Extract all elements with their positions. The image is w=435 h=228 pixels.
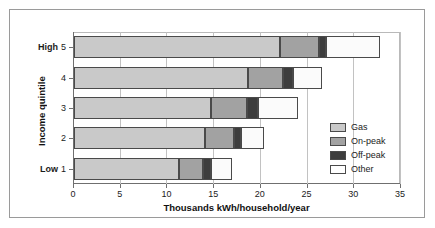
x-axis-title: Thousands kWh/household/year	[73, 202, 400, 213]
bar-segment-other-q4	[293, 67, 322, 89]
y-tick-q5	[69, 47, 73, 48]
bar-segment-off-peak-q4	[283, 67, 292, 89]
bar-segment-on-peak-q3	[211, 97, 247, 119]
legend-swatch-off-peak	[330, 151, 346, 160]
x-tick-label-5: 5	[117, 189, 122, 199]
y-edge-label-low: Low	[40, 164, 58, 174]
y-edge-label-high: High	[38, 42, 58, 52]
x-tick-label-15: 15	[208, 189, 218, 199]
x-tick-10	[166, 184, 167, 188]
x-tick-label-10: 10	[161, 189, 171, 199]
bar-segment-off-peak-q3	[247, 97, 258, 119]
plot-top-border	[73, 32, 400, 33]
x-tick-5	[120, 184, 121, 188]
y-quintile-number: 3	[61, 103, 66, 113]
legend-item-on-peak[interactable]: On-peak	[330, 134, 404, 148]
y-quintile-number: 5	[61, 42, 66, 52]
legend-label-on-peak: On-peak	[351, 136, 386, 146]
bar-segment-gas-q5	[74, 36, 280, 58]
y-quintile-number: 2	[61, 133, 66, 143]
bar-segment-other-q1	[211, 158, 232, 180]
y-tick-q3	[69, 108, 73, 109]
legend-label-off-peak: Off-peak	[351, 150, 385, 160]
x-tick-label-35: 35	[395, 189, 405, 199]
legend-item-gas[interactable]: Gas	[330, 120, 404, 134]
bar-segment-on-peak-q2	[205, 127, 234, 149]
y-tick-label-q1: Low1	[40, 164, 66, 174]
x-tick-20	[260, 184, 261, 188]
bar-segment-gas-q1	[74, 158, 179, 180]
y-quintile-number: 4	[61, 73, 66, 83]
x-tick-label-30: 30	[348, 189, 358, 199]
y-tick-label-q3: 3	[61, 103, 66, 113]
y-axis-title: Income quintile	[36, 66, 48, 156]
bar-segment-other-q3	[258, 97, 298, 119]
legend-label-other: Other	[351, 164, 374, 174]
x-tick-35	[400, 184, 401, 188]
x-tick-15	[213, 184, 214, 188]
x-tick-label-20: 20	[255, 189, 265, 199]
y-tick-q4	[69, 78, 73, 79]
legend-swatch-gas	[330, 123, 346, 132]
bar-segment-off-peak-q5	[319, 36, 326, 58]
legend-item-off-peak[interactable]: Off-peak	[330, 148, 404, 162]
x-tick-30	[353, 184, 354, 188]
bar-segment-gas-q2	[74, 127, 205, 149]
bar-segment-other-q5	[326, 36, 379, 58]
bar-segment-on-peak-q1	[179, 158, 203, 180]
bar-segment-other-q2	[241, 127, 263, 149]
bar-segment-on-peak-q5	[280, 36, 319, 58]
y-tick-q1	[69, 169, 73, 170]
x-tick-0	[73, 184, 74, 188]
legend-item-other[interactable]: Other	[330, 162, 404, 176]
bar-segment-off-peak-q2	[234, 127, 241, 149]
x-tick-label-25: 25	[302, 189, 312, 199]
y-tick-label-q2: 2	[61, 133, 66, 143]
y-tick-q2	[69, 138, 73, 139]
x-axis-line	[73, 183, 400, 184]
y-tick-label-q4: 4	[61, 73, 66, 83]
bar-segment-gas-q4	[74, 67, 248, 89]
chart-legend: GasOn-peakOff-peakOther	[330, 120, 404, 176]
legend-swatch-other	[330, 165, 346, 174]
bar-segment-off-peak-q1	[203, 158, 211, 180]
y-tick-label-q5: High5	[38, 42, 66, 52]
legend-swatch-on-peak	[330, 137, 346, 146]
x-tick-label-0: 0	[70, 189, 75, 199]
legend-label-gas: Gas	[351, 122, 368, 132]
bar-segment-gas-q3	[74, 97, 211, 119]
y-quintile-number: 1	[61, 164, 66, 174]
chart-figure: Income quintile 05101520253035 Low1234Hi…	[9, 9, 425, 218]
x-tick-25	[307, 184, 308, 188]
bar-segment-on-peak-q4	[248, 67, 284, 89]
